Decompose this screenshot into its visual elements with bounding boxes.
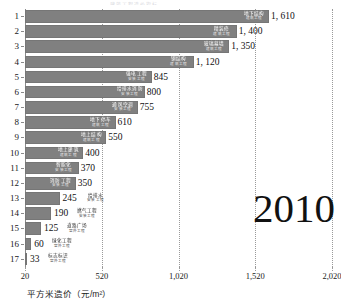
bar-category-group: 室外工程 xyxy=(49,245,75,249)
bar-value-label: 1, 400 xyxy=(239,24,263,39)
bar-category-group: 安装工程 xyxy=(83,199,109,203)
y-tick-mark xyxy=(21,122,24,123)
y-tick-label: 13 xyxy=(0,191,19,206)
bar-value-label: 610 xyxy=(118,115,132,130)
y-tick-mark xyxy=(21,259,24,260)
bar-value-label: 800 xyxy=(147,85,161,100)
x-tick-label: 1,520 xyxy=(246,271,265,281)
bar-category-label: 给排水安装工程 xyxy=(83,191,109,205)
y-tick-mark xyxy=(21,62,24,63)
y-tick-label: 5 xyxy=(0,70,19,85)
y-tick-label: 1 xyxy=(0,9,19,24)
bar-value-label: 350 xyxy=(78,176,92,191)
bar-category-label: 标志标识室外工程 xyxy=(45,252,71,266)
bar-category-name: 道路广场 xyxy=(64,224,90,229)
bar-value-label: 1, 120 xyxy=(196,55,220,70)
year-badge: 2010 xyxy=(253,188,335,229)
y-tick-label: 2 xyxy=(0,24,19,39)
y-tick-label: 4 xyxy=(0,55,19,70)
chart-row: 5强电工程安装工程845 xyxy=(0,70,341,85)
y-tick-mark xyxy=(21,213,24,214)
y-tick-mark xyxy=(21,107,24,108)
bar-category-label: 道路广场室外工程 xyxy=(64,221,90,235)
y-tick-mark xyxy=(21,46,24,47)
y-tick-mark xyxy=(21,153,24,154)
cut-off-title: 建筑工程造价指标 xyxy=(110,0,250,5)
bar[interactable] xyxy=(25,147,83,160)
bar-category-label: 燃气工程安装工程 xyxy=(74,206,100,220)
x-tick-label: 20 xyxy=(21,271,30,281)
y-tick-label: 14 xyxy=(0,206,19,221)
bar-value-label: 550 xyxy=(108,130,122,145)
bar[interactable] xyxy=(25,86,145,99)
y-tick-label: 7 xyxy=(0,100,19,115)
bar[interactable] xyxy=(25,71,152,84)
bar-value-label: 400 xyxy=(85,146,99,161)
bar[interactable] xyxy=(25,222,41,235)
bar-value-label: 1, 610 xyxy=(271,9,295,24)
chart-row: 17标志标识室外工程33 xyxy=(0,252,341,267)
bar-value-label: 125 xyxy=(44,221,58,236)
y-tick-mark xyxy=(21,31,24,32)
chart-row: 6给排水消防安装工程800 xyxy=(0,85,341,100)
bar[interactable] xyxy=(25,238,31,251)
bar-value-label: 845 xyxy=(154,70,168,85)
y-tick-label: 3 xyxy=(0,39,19,54)
x-axis-title: 平方米造价（元/m²） xyxy=(27,287,111,299)
x-tick-label: 520 xyxy=(95,271,108,281)
y-tick-label: 16 xyxy=(0,237,19,252)
bar-category-name: 燃气工程 xyxy=(74,209,100,214)
y-tick-mark xyxy=(21,137,24,138)
bar-category-name: 绿化工程 xyxy=(49,239,75,244)
chart-row: 4钢结构建筑工程1, 120 xyxy=(0,55,341,70)
y-tick-mark xyxy=(21,244,24,245)
y-tick-label: 15 xyxy=(0,221,19,236)
bar[interactable] xyxy=(25,10,269,23)
y-tick-mark xyxy=(21,77,24,78)
bar[interactable] xyxy=(25,253,27,266)
bar-category-group: 室外工程 xyxy=(45,260,71,264)
bar-category-name: 给排水 xyxy=(83,194,109,199)
y-tick-label: 6 xyxy=(0,85,19,100)
y-tick-label: 8 xyxy=(0,115,19,130)
bar[interactable] xyxy=(25,40,229,53)
bar[interactable] xyxy=(25,56,194,69)
bar[interactable] xyxy=(25,116,116,129)
bar-value-label: 245 xyxy=(63,191,77,206)
y-tick-mark xyxy=(21,92,24,93)
bar-value-label: 190 xyxy=(54,206,68,221)
chart-row: 9地上结构建筑工程550 xyxy=(0,130,341,145)
bar-category-group: 室外工程 xyxy=(64,230,90,234)
y-tick-mark xyxy=(21,183,24,184)
bar[interactable] xyxy=(25,192,60,205)
bar-value-label: 60 xyxy=(34,237,44,252)
chart-row: 16绿化工程室外工程60 xyxy=(0,237,341,252)
chart-row: 1地下结构建筑工程1, 610 xyxy=(0,9,341,24)
y-tick-mark xyxy=(21,198,24,199)
y-tick-label: 10 xyxy=(0,146,19,161)
bar-category-group: 安装工程 xyxy=(74,215,100,219)
chart-row: 8地下停车建筑工程610 xyxy=(0,115,341,130)
y-tick-label: 12 xyxy=(0,176,19,191)
bar[interactable] xyxy=(25,207,51,220)
bar-value-label: 370 xyxy=(81,161,95,176)
y-tick-label: 17 xyxy=(0,252,19,267)
x-axis: 205201,0201,5202,020平方米造价（元/m²） xyxy=(0,267,341,306)
y-tick-mark xyxy=(21,16,24,17)
bar[interactable] xyxy=(25,25,237,38)
y-tick-mark xyxy=(21,228,24,229)
bar-value-label: 1, 350 xyxy=(231,39,255,54)
chart-row: 11智能化安装工程370 xyxy=(0,161,341,176)
bar-value-label: 33 xyxy=(30,252,40,267)
bar[interactable] xyxy=(25,101,138,114)
chart-row: 2精装修建筑工程1, 400 xyxy=(0,24,341,39)
x-tick-label: 2,020 xyxy=(322,271,341,281)
bar-value-label: 755 xyxy=(140,100,154,115)
y-tick-label: 9 xyxy=(0,130,19,145)
bar[interactable] xyxy=(25,162,79,175)
bar[interactable] xyxy=(25,177,76,190)
bar-category-label: 绿化工程室外工程 xyxy=(49,237,75,251)
y-tick-label: 11 xyxy=(0,161,19,176)
bar[interactable] xyxy=(25,131,106,144)
chart-row: 10地上建筑建筑工程400 xyxy=(0,146,341,161)
